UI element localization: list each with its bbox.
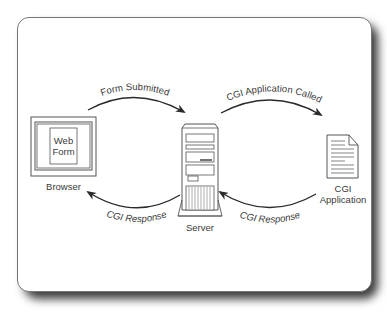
edge-label-response-to-browser: CGI Response	[105, 208, 167, 224]
cgi-application-line1: CGI	[312, 183, 374, 194]
edge-label-response-to-server: CGI Response	[239, 209, 301, 225]
browser-inner-label: Web Form	[50, 135, 77, 157]
arrow-cgi-called	[221, 100, 321, 115]
edge-label-form-submitted: Form Submitted	[99, 81, 171, 98]
diagram-canvas: Form Submitted CGI Application Called CG…	[0, 0, 387, 317]
cgi-application-line2: Application	[312, 194, 374, 205]
browser-label: Browser	[30, 181, 97, 192]
server-icon	[178, 124, 222, 216]
arrow-response-to-browser	[88, 192, 180, 208]
cgi-application-label: CGI Application	[312, 183, 374, 205]
edge-label-cgi-called: CGI Application Called	[225, 82, 324, 104]
server-label: Server	[170, 222, 230, 233]
arrow-form-submitted	[88, 97, 184, 112]
document-icon	[327, 135, 358, 178]
web-form-line1: Web	[50, 135, 77, 146]
web-form-line2: Form	[50, 146, 77, 157]
arrow-response-to-server	[220, 192, 316, 208]
